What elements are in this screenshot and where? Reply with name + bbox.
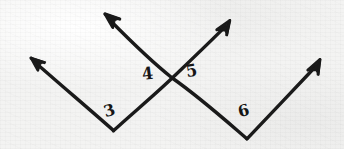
ray-upper-left-inner-shaft: [111, 21, 247, 139]
ray-upper-right-inner: [113, 20, 230, 131]
ray-upper-left: [30, 57, 113, 130]
ray-upper-right: [247, 59, 321, 139]
diagram-ink-layer: [0, 0, 344, 149]
ray-upper-left-shaft: [36, 63, 114, 131]
ray-upper-right-shaft: [247, 66, 316, 139]
angle-label-4: 4: [141, 65, 154, 83]
angle-diagram-figure: 3 4 5 6: [0, 0, 344, 149]
